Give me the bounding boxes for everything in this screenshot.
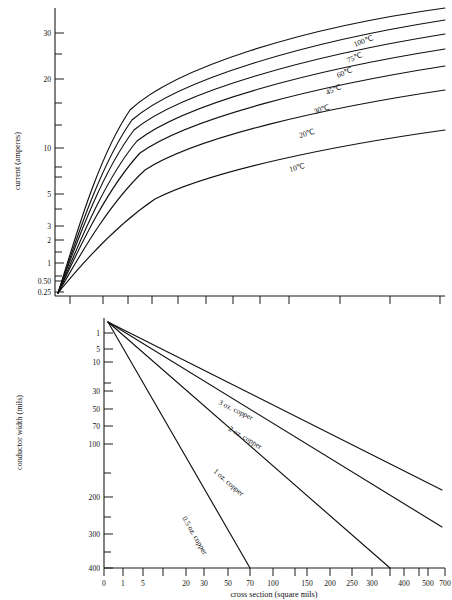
- bottom-y-tick-label: 70: [92, 422, 100, 431]
- top-y-tick-label: 3: [47, 222, 51, 231]
- bottom-x-axis-title: cross section (square mils): [230, 590, 317, 599]
- bottom-y-tick-label: 10: [92, 358, 100, 367]
- curve-label-100C: 100℃: [352, 33, 374, 49]
- bottom-x-tick-label: 1: [121, 579, 125, 588]
- bottom-x-ticks: 0 1 5 20 30 50 70 100 150 200 250: [102, 568, 451, 588]
- bottom-x-tick-label: 500: [422, 579, 434, 588]
- curve-60C: [58, 34, 445, 293]
- bottom-y-tick-label: 100: [89, 440, 101, 449]
- bottom-y-tick-label: 1: [96, 329, 100, 338]
- bottom-y-tick-label: 50: [92, 405, 100, 414]
- bottom-x-tick-label: 100: [267, 579, 279, 588]
- line-05oz-copper: [108, 322, 250, 568]
- curve-20C: [58, 90, 445, 293]
- top-x-ticks: [70, 296, 440, 304]
- curve-label-30C: 30℃: [313, 102, 332, 116]
- figure-current-capacity-chart: 30 20 10 5 3 2 1 0.50 0.25: [0, 0, 452, 600]
- top-y-tick-label: 1: [47, 259, 51, 268]
- top-y-tick-label: 30: [43, 29, 51, 38]
- bottom-y-ticks: 1 5 10 30 50 70 100 200 300 400: [89, 329, 113, 573]
- curve-label-1oz-copper: 1 oz. copper: [212, 467, 246, 499]
- curve-label-3oz-copper: 3 oz. copper: [217, 398, 255, 423]
- top-y-tick-label: 2: [47, 236, 51, 245]
- top-y-tick-label: 10: [43, 144, 51, 153]
- bottom-x-tick-label: 700: [439, 579, 451, 588]
- top-y-tick-label: 0.25: [38, 288, 51, 297]
- line-2oz-copper: [108, 322, 442, 527]
- curve-label-10C: 10℃: [288, 161, 306, 174]
- line-1oz-copper: [108, 322, 390, 568]
- bottom-y-tick-label: 200: [89, 493, 101, 502]
- curve-30C: [58, 66, 445, 293]
- top-y-tick-label: 20: [43, 75, 51, 84]
- curve-45C: [58, 49, 445, 293]
- bottom-x-tick-label: 200: [324, 579, 336, 588]
- curve-label-45C: 45℃: [324, 82, 343, 97]
- bottom-y-tick-label: 30: [92, 387, 100, 396]
- bottom-x-tick-label: 20: [182, 579, 190, 588]
- bottom-x-tick-label: 5: [141, 579, 145, 588]
- curve-label-60C: 60℃: [335, 65, 354, 80]
- bottom-y-tick-label: 5: [96, 345, 100, 354]
- bottom-x-tick-label: 70: [246, 579, 254, 588]
- line-3oz-copper: [108, 322, 442, 490]
- bottom-panel: 1 5 10 30 50 70 100 200 300 400: [15, 318, 451, 599]
- chart-svg: 30 20 10 5 3 2 1 0.50 0.25: [0, 0, 452, 600]
- bottom-y-tick-label: 400: [89, 564, 101, 573]
- top-y-axis-title: current (amperes): [13, 132, 22, 190]
- top-panel: 30 20 10 5 3 2 1 0.50 0.25: [13, 8, 445, 304]
- bottom-x-tick-label: 30: [200, 579, 208, 588]
- curve-100C: [58, 8, 445, 293]
- bottom-x-tick-label: 400: [398, 579, 410, 588]
- top-y-tick-label: 0.50: [38, 277, 51, 286]
- bottom-x-tick-label: 50: [224, 579, 232, 588]
- bottom-y-tick-label: 300: [89, 530, 101, 539]
- top-y-tick-label: 5: [47, 190, 51, 199]
- bottom-x-tick-label: 150: [301, 579, 313, 588]
- top-y-ticks: 30 20 10 5 3 2 1 0.50 0.25: [38, 29, 64, 297]
- bottom-x-tick-label: 0: [102, 579, 106, 588]
- bottom-y-axis-title: conductor width (mils): [15, 395, 24, 470]
- bottom-x-tick-label: 300: [366, 579, 378, 588]
- curve-10C: [58, 130, 445, 293]
- curve-label-20C: 20℃: [298, 126, 317, 139]
- curve-label-05oz-copper: 0.5 oz. copper: [180, 515, 210, 557]
- curve-label-2oz-copper: 2 oz. copper: [227, 424, 264, 451]
- bottom-x-tick-label: 250: [346, 579, 358, 588]
